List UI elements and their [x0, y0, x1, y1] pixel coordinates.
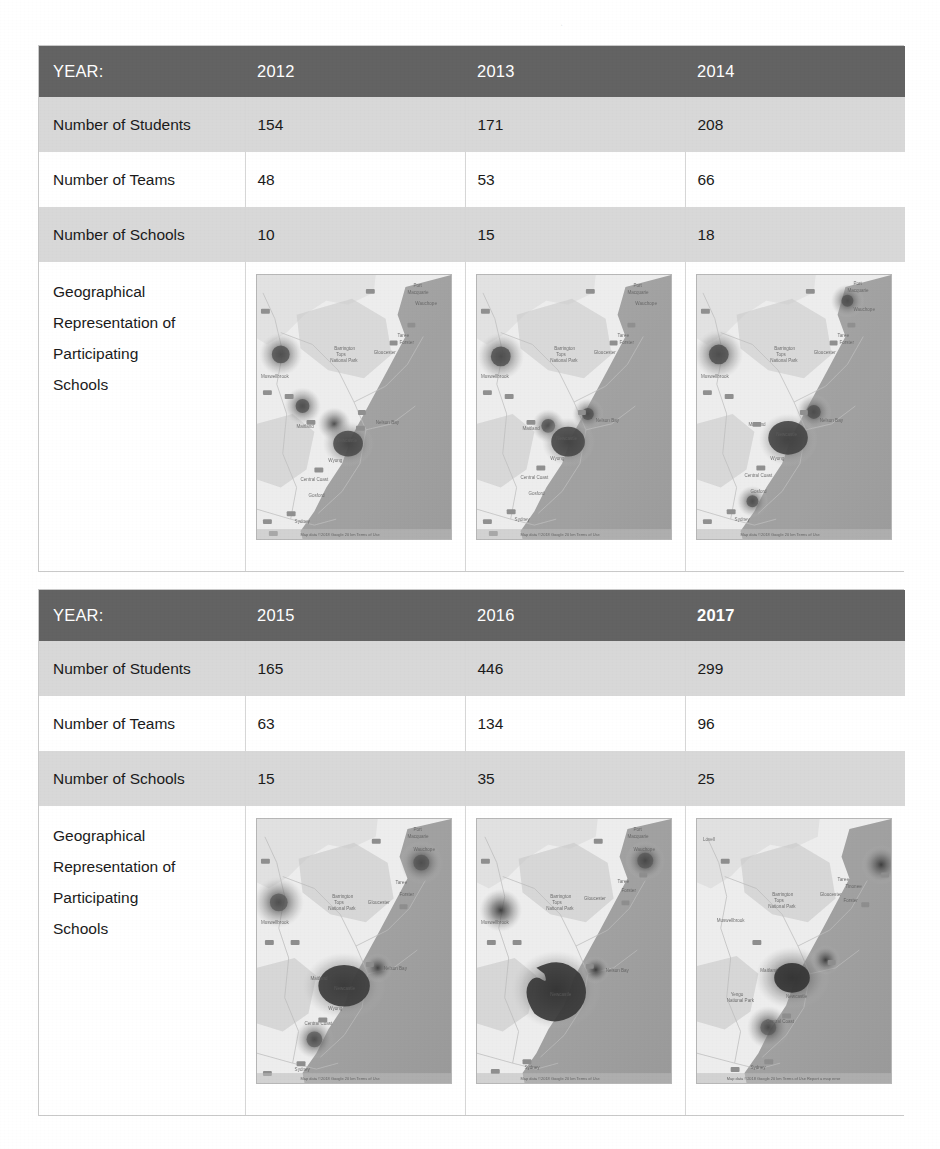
schools-2013: 15	[465, 207, 685, 262]
map-cell-2015: Port Macquarie Wauchope Taree Forster Gl…	[245, 806, 465, 1115]
svg-text:Map data ©2018 Google 20: Map data ©2018 Google 20 km Terms of Use…	[726, 1076, 840, 1081]
svg-text:Maitland: Maitland	[310, 976, 328, 981]
svg-text:Nelson Bay: Nelson Bay	[605, 968, 629, 973]
svg-text:Port: Port	[413, 827, 422, 832]
header-year-2017: 2017	[685, 590, 905, 641]
geo2-label-line-2: Representation of	[53, 851, 237, 882]
svg-text:Macquarie: Macquarie	[407, 834, 429, 839]
map-cell-2014: Port Macquarie Wauchope Taree Forster Gl…	[685, 262, 905, 571]
svg-text:Wyong: Wyong	[328, 1006, 343, 1011]
students-2014: 208	[685, 97, 905, 152]
svg-text:Muswellbrook: Muswellbrook	[700, 374, 728, 379]
svg-text:Gloucester: Gloucester	[819, 892, 841, 897]
svg-text:Muswellbrook: Muswellbrook	[716, 918, 744, 923]
students-2017: 299	[685, 641, 905, 696]
svg-text:Forster: Forster	[621, 888, 636, 893]
row-label-teams: Number of Teams	[39, 152, 245, 207]
svg-text:Sydney: Sydney	[750, 1065, 766, 1070]
row-label-teams-2: Number of Teams	[39, 696, 245, 751]
svg-text:Gosford: Gosford	[528, 491, 545, 496]
svg-text:Tops: Tops	[552, 900, 562, 905]
svg-text:Taree: Taree	[617, 333, 629, 338]
table-row-students: Number of Students 154 171 208	[39, 97, 905, 152]
svg-text:Map data ©2018 Google 2: Map data ©2018 Google 20 km Terms of Use	[520, 1076, 600, 1081]
svg-text:Barrington: Barrington	[554, 346, 575, 351]
svg-text:Tops: Tops	[774, 898, 784, 903]
svg-text:Gloucester: Gloucester	[593, 350, 615, 355]
header-year-2016: 2016	[465, 590, 685, 641]
svg-text:Map data ©2018 Google 2: Map data ©2018 Google 20 km Terms of Use	[740, 532, 820, 537]
schools-2016: 35	[465, 751, 685, 806]
svg-text:Sydney: Sydney	[514, 517, 530, 522]
svg-text:Wauchope: Wauchope	[633, 847, 655, 852]
svg-text:Wauchope: Wauchope	[635, 301, 657, 306]
svg-text:National Park: National Park	[726, 998, 754, 1003]
row-label-students-2: Number of Students	[39, 641, 245, 696]
svg-text:Tops: Tops	[776, 352, 786, 357]
document-page: YEAR: 2012 2013 2014 Number of Students …	[0, 0, 940, 1149]
table-header-row: YEAR: 2012 2013 2014	[39, 46, 905, 97]
schools-2015: 15	[245, 751, 465, 806]
geo-label-line-1: Geographical	[53, 276, 237, 307]
svg-text:Barrington: Barrington	[550, 894, 571, 899]
svg-text:Barrington: Barrington	[772, 892, 793, 897]
heatmap-svg-2016: Port Macquarie Wauchope Taree Forster Gl…	[477, 819, 671, 1083]
svg-text:Newcastle: Newcastle	[550, 992, 571, 997]
svg-text:Macquarie: Macquarie	[627, 290, 649, 295]
svg-text:Forster: Forster	[399, 340, 414, 345]
participation-table-2012-2014: YEAR: 2012 2013 2014 Number of Students …	[38, 45, 904, 572]
svg-text:Muswellbrook: Muswellbrook	[260, 920, 288, 925]
svg-text:Taree: Taree	[617, 879, 629, 884]
svg-text:National Park: National Park	[330, 358, 358, 363]
students-2012: 154	[245, 97, 465, 152]
svg-text:Muswellbrook: Muswellbrook	[260, 374, 288, 379]
svg-text:Muswellbrook: Muswellbrook	[480, 374, 508, 379]
svg-text:Gosford: Gosford	[750, 489, 767, 494]
heatmap-image-2014: Port Macquarie Wauchope Taree Forster Gl…	[696, 274, 892, 540]
teams-2014: 66	[685, 152, 905, 207]
svg-text:Wauchope: Wauchope	[415, 301, 437, 306]
svg-text:Wyong: Wyong	[550, 456, 565, 461]
svg-text:Map data ©2018 Google 2: Map data ©2018 Google 20 km Terms of Use	[300, 532, 380, 537]
svg-text:Tops: Tops	[334, 900, 344, 905]
svg-text:Nelson Bay: Nelson Bay	[383, 966, 407, 971]
svg-text:Nelson Bay: Nelson Bay	[819, 418, 843, 423]
teams-2015: 63	[245, 696, 465, 751]
table-row-teams-2: Number of Teams 63 134 96	[39, 696, 905, 751]
svg-text:Macquarie: Macquarie	[627, 834, 649, 839]
heatmap-svg-2015: Port Macquarie Wauchope Taree Forster Gl…	[257, 819, 451, 1083]
svg-text:Sydney: Sydney	[294, 519, 310, 524]
heatmap-svg-2013: Port Macquarie Wauchope Taree Forster Gl…	[477, 275, 671, 539]
svg-text:Forster: Forster	[399, 892, 414, 897]
svg-text:Map data ©2018 Google 2: Map data ©2018 Google 20 km Terms of Use	[520, 532, 600, 537]
header-year-2012: 2012	[245, 46, 465, 97]
svg-text:Barrington: Barrington	[774, 346, 795, 351]
svg-text:Gloucester: Gloucester	[367, 900, 389, 905]
svg-text:National Park: National Park	[328, 906, 356, 911]
svg-text:Newcastle: Newcastle	[556, 436, 577, 441]
svg-text:Barrington: Barrington	[332, 894, 353, 899]
teams-2017: 96	[685, 696, 905, 751]
row-label-schools-2: Number of Schools	[39, 751, 245, 806]
heatmap-image-2013: Port Macquarie Wauchope Taree Forster Gl…	[476, 274, 672, 540]
heatmap-image-2017: Lovell Taree Tinonee Forster Gloucester …	[696, 818, 892, 1084]
header-year-label-2: YEAR:	[39, 590, 245, 641]
header-year-2015: 2015	[245, 590, 465, 641]
map-cell-2017: Lovell Taree Tinonee Forster Gloucester …	[685, 806, 905, 1115]
teams-2016: 134	[465, 696, 685, 751]
svg-text:Nelson Bay: Nelson Bay	[375, 420, 399, 425]
svg-text:Wyong: Wyong	[328, 458, 343, 463]
svg-text:Taree: Taree	[395, 880, 407, 885]
heatmap-svg-2014: Port Macquarie Wauchope Taree Forster Gl…	[697, 275, 891, 539]
geo2-label-line-1: Geographical	[53, 820, 237, 851]
row-label-students: Number of Students	[39, 97, 245, 152]
table-row-teams: Number of Teams 48 53 66	[39, 152, 905, 207]
table-row-geographical: Geographical Representation of Participa…	[39, 262, 905, 571]
svg-text:Sydney: Sydney	[294, 1067, 310, 1072]
geo2-label-line-4: Schools	[53, 913, 237, 944]
svg-text:Barrington: Barrington	[334, 346, 355, 351]
svg-text:Port: Port	[413, 283, 422, 288]
svg-text:Central Coast: Central Coast	[766, 1019, 794, 1024]
header-year-label: YEAR:	[39, 46, 245, 97]
svg-text:Macquarie: Macquarie	[847, 288, 869, 293]
